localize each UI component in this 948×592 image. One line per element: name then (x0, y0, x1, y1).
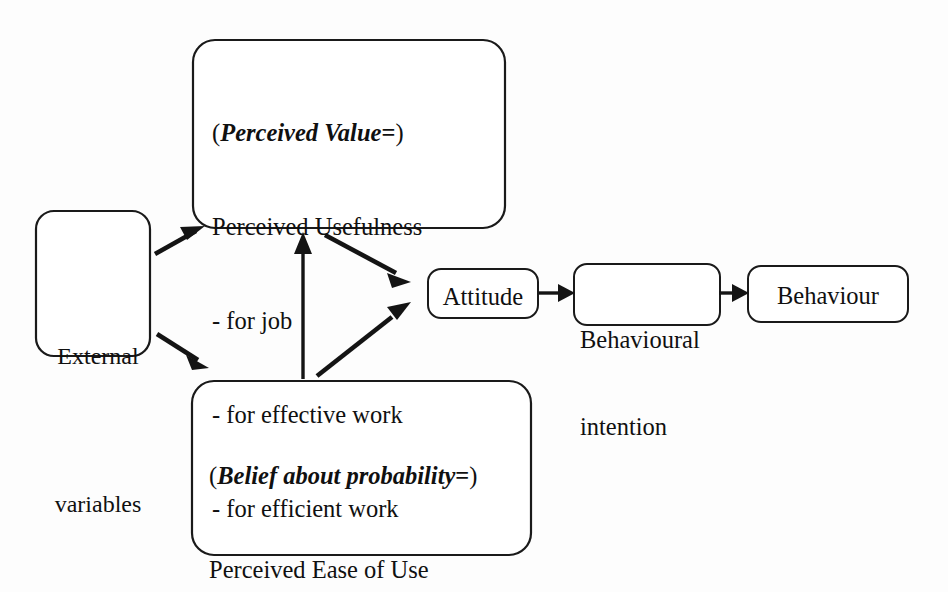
diagram-canvas: External variables (Perceived Value=) Pe… (0, 0, 948, 592)
node-behavioural-intention-box[interactable] (574, 264, 720, 325)
edge-external-to-ease-of-use (157, 334, 209, 370)
edge-ease-of-use-to-usefulness (294, 232, 312, 379)
node-perceived-ease-of-use-box[interactable] (192, 381, 531, 555)
diagram-svg (0, 0, 948, 592)
node-behaviour-box[interactable] (748, 266, 908, 322)
node-perceived-usefulness-box[interactable] (193, 40, 505, 228)
edge-external-to-usefulness (155, 226, 205, 254)
edge-usefulness-to-attitude (325, 235, 411, 288)
edge-ease-of-use-to-attitude (317, 302, 411, 376)
edge-intention-to-behaviour (719, 284, 749, 302)
node-external-variables-box[interactable] (36, 211, 150, 356)
edge-attitude-to-intention (539, 284, 575, 302)
node-attitude-box[interactable] (428, 269, 538, 318)
